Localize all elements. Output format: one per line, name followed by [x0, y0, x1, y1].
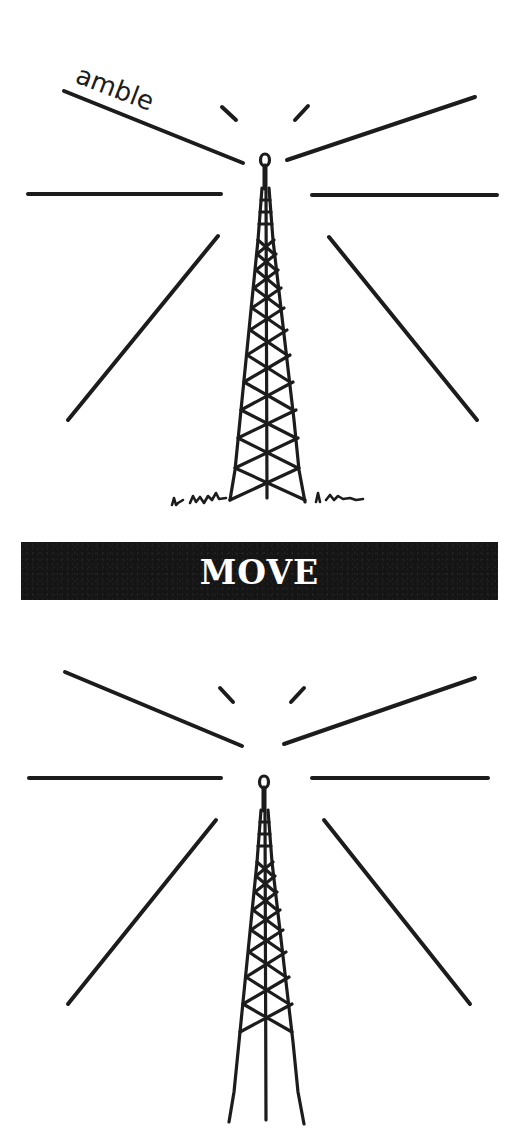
- tick-right: [295, 106, 308, 120]
- grass-left: [172, 493, 226, 505]
- radio-tower-icon: [29, 672, 488, 1124]
- tower-leg-left: [229, 810, 261, 1122]
- move-banner: MOVE: [21, 542, 498, 600]
- amble-caption: amble: [72, 60, 158, 117]
- ray-upper-left: [64, 91, 243, 163]
- tick-left: [222, 107, 236, 120]
- tick-left: [220, 688, 233, 702]
- ray-lower-left: [68, 820, 216, 1004]
- ray-upper-right: [287, 97, 475, 160]
- radio-tower-illustration-bottom: [0, 622, 532, 1130]
- radio-tower-illustration-top: amble: [0, 0, 532, 520]
- tower-structure: [229, 776, 304, 1124]
- ray-lower-right: [329, 237, 477, 420]
- ray-upper-right: [284, 678, 475, 744]
- ray-lower-right: [324, 820, 470, 1004]
- ray-lower-left: [68, 236, 218, 420]
- tick-right: [291, 688, 304, 702]
- tower-structure: [230, 154, 305, 502]
- grass-right: [316, 493, 363, 502]
- radio-tower-icon: amble: [28, 60, 497, 505]
- tower-leg-left: [230, 188, 262, 500]
- ray-upper-left: [65, 672, 242, 746]
- move-banner-label: MOVE: [200, 554, 319, 589]
